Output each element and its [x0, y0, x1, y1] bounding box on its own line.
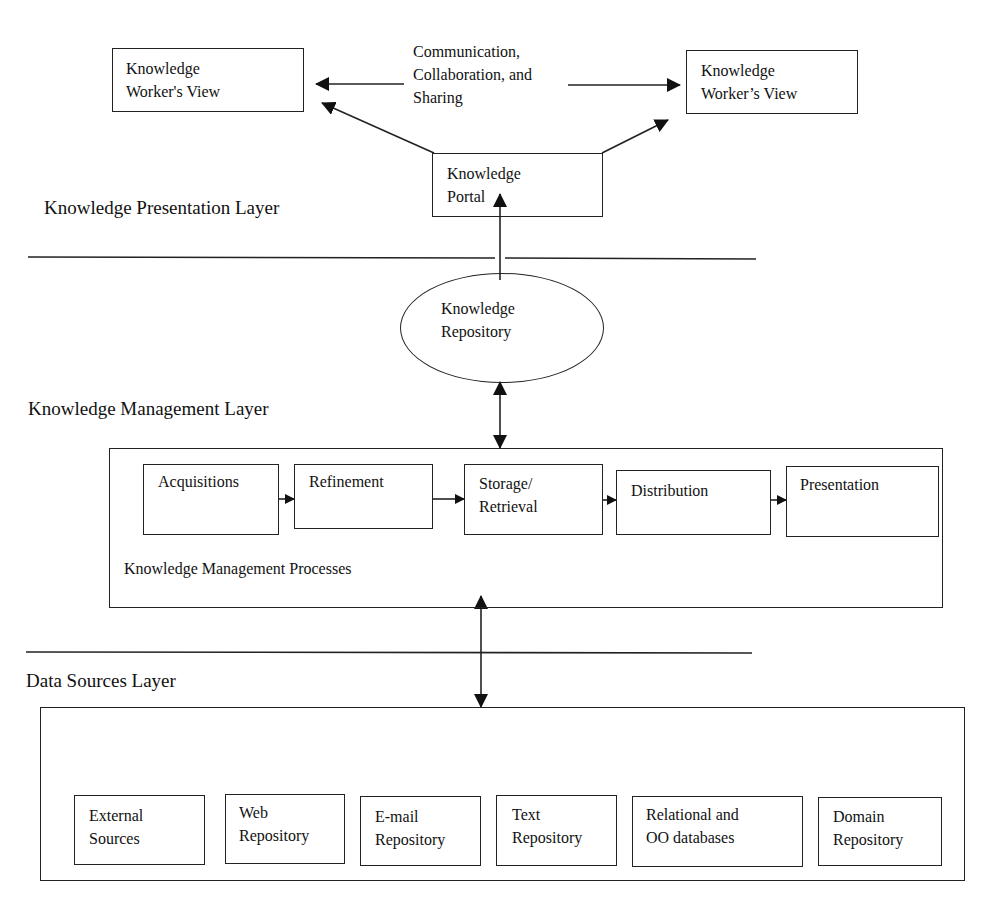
source-web-repository-label: Web Repository [239, 801, 309, 847]
source-domain-repository-label: Domain Repository [833, 805, 903, 851]
knowledge-portal-label: Knowledge Portal [447, 162, 521, 208]
knowledge-repository-label: Knowledge Repository [441, 297, 515, 343]
knowledge-management-processes-label: Knowledge Management Processes [124, 557, 352, 580]
knowledge-worker-view-right-label: Knowledge Worker’s View [701, 59, 797, 105]
source-email-repository-label: E-mail Repository [375, 805, 445, 851]
source-text-repository-label: Text Repository [512, 803, 582, 849]
knowledge-presentation-layer-label: Knowledge Presentation Layer [44, 197, 279, 219]
process-refinement-label: Refinement [309, 470, 384, 493]
source-external-sources-label: External Sources [89, 804, 143, 850]
source-relational-oo-databases-label: Relational and OO databases [646, 803, 739, 849]
process-distribution-label: Distribution [631, 479, 708, 502]
knowledge-worker-view-left-label: Knowledge Worker's View [126, 57, 220, 103]
data-sources-layer-label: Data Sources Layer [26, 670, 176, 692]
communication-collaboration-sharing-label: Communication, Collaboration, and Sharin… [413, 40, 532, 109]
knowledge-management-layer-label: Knowledge Management Layer [28, 398, 269, 420]
process-presentation-label: Presentation [800, 473, 879, 496]
process-acquisitions-label: Acquisitions [158, 470, 239, 493]
process-storage-retrieval-label: Storage/ Retrieval [479, 472, 538, 518]
